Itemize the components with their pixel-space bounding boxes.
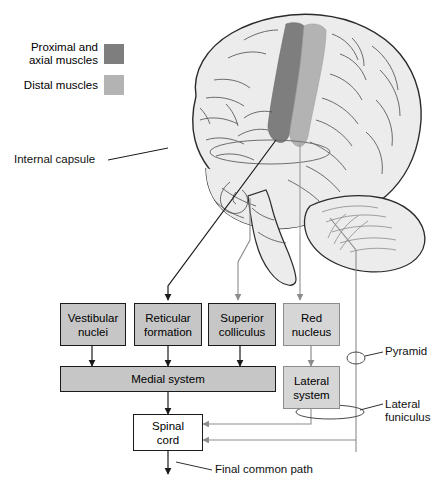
diagram-canvas: Proximal and axial muscles Distal muscle… [0, 0, 440, 485]
node-superior-colliculus[interactable]: Superior colliculus [208, 303, 276, 346]
label-internal-capsule: Internal capsule [14, 153, 95, 166]
final-common-path-leader [176, 462, 212, 470]
legend-swatch-distal [104, 75, 124, 95]
legend: Proximal and axial muscles Distal muscle… [12, 41, 124, 103]
legend-label-proximal-axial: Proximal and axial muscles [12, 41, 104, 67]
node-spinal-cord[interactable]: Spinal cord [133, 414, 203, 451]
node-spinal-cord-line1: Spinal [152, 419, 184, 433]
node-vestibular-nuclei-line1: Vestibular [68, 311, 119, 325]
label-pyramid: Pyramid [385, 345, 427, 358]
brain-figure [193, 14, 425, 285]
legend-label-distal: Distal muscles [12, 79, 104, 92]
legend-item-distal: Distal muscles [12, 75, 124, 95]
label-final-common-path: Final common path [215, 463, 313, 476]
node-reticular-formation-line2: formation [144, 325, 192, 339]
legend-swatch-proximal-axial [104, 44, 124, 64]
label-lateral-funiculus: Lateral funiculus [385, 398, 430, 424]
legend-label-proximal-axial-line1: Proximal and [31, 41, 98, 53]
legend-item-proximal-axial: Proximal and axial muscles [12, 41, 124, 67]
node-reticular-formation[interactable]: Reticular formation [134, 303, 202, 346]
label-lateral-funiculus-line2: funiculus [385, 411, 430, 423]
legend-label-proximal-axial-line2: axial muscles [29, 54, 98, 66]
node-red-nucleus-line2: nucleus [292, 325, 332, 339]
node-superior-colliculus-line1: Superior [219, 311, 266, 325]
node-red-nucleus-line1: Red [292, 311, 332, 325]
internal-capsule-leader [108, 148, 168, 160]
label-lateral-funiculus-line1: Lateral [385, 398, 420, 410]
node-lateral-system-line2: system [293, 388, 329, 402]
pyramid-leader [365, 352, 383, 356]
node-lateral-system[interactable]: Lateral system [283, 366, 340, 409]
cerebellum [304, 196, 424, 272]
node-reticular-formation-line1: Reticular [144, 311, 192, 325]
node-medial-system[interactable]: Medial system [60, 366, 276, 392]
node-lateral-system-line1: Lateral [293, 374, 329, 388]
lateral-funiculus-leader [360, 404, 383, 410]
node-vestibular-nuclei[interactable]: Vestibular nuclei [60, 303, 126, 346]
node-red-nucleus[interactable]: Red nucleus [283, 303, 340, 346]
node-vestibular-nuclei-line2: nuclei [68, 325, 119, 339]
node-superior-colliculus-line2: colliculus [219, 325, 266, 339]
node-medial-system-label: Medial system [131, 372, 205, 386]
node-spinal-cord-line2: cord [152, 433, 184, 447]
